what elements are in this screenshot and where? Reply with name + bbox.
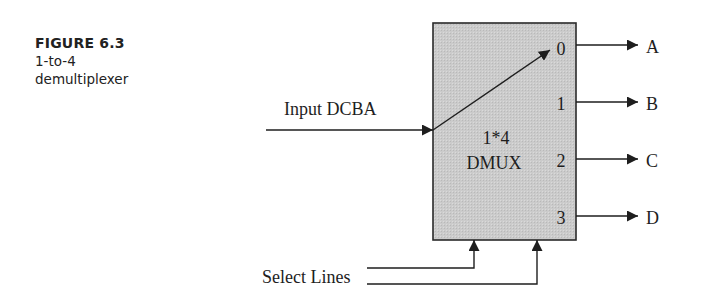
select-line-2 bbox=[367, 240, 537, 284]
output-label-b: B bbox=[646, 94, 658, 114]
select-lines-label: Select Lines bbox=[262, 267, 350, 287]
output-label-a: A bbox=[646, 37, 659, 57]
output-label-c: C bbox=[646, 151, 658, 171]
pin-2: 2 bbox=[557, 151, 566, 171]
output-label-d: D bbox=[646, 208, 659, 228]
pin-3: 3 bbox=[557, 208, 566, 228]
pin-0: 0 bbox=[557, 39, 566, 59]
input-label: Input DCBA bbox=[284, 99, 377, 119]
pin-1: 1 bbox=[557, 94, 566, 114]
block-label-line-1: 1*4 bbox=[483, 128, 510, 148]
block-label-line-2: DMUX bbox=[466, 153, 521, 173]
demux-diagram: Input DCBA 1*4 DMUX 0 1 2 3 A B C D Sele… bbox=[0, 0, 701, 300]
select-line-1 bbox=[367, 240, 474, 268]
